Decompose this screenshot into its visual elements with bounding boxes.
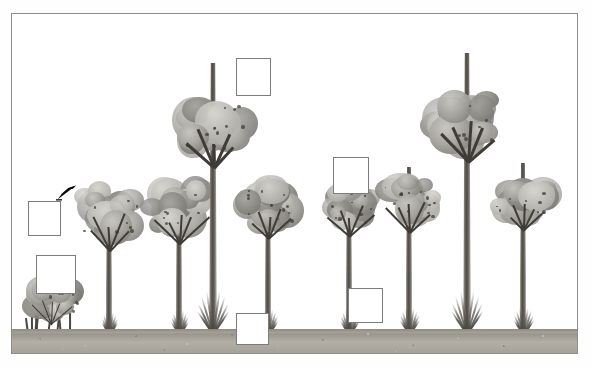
illustration-stage xyxy=(0,0,592,368)
answer-box-1[interactable] xyxy=(28,201,61,236)
answer-box-6[interactable] xyxy=(348,288,383,323)
answer-box-label xyxy=(349,289,382,322)
answer-box-label xyxy=(334,158,368,193)
answer-box-label xyxy=(237,314,268,344)
answer-box-label xyxy=(29,202,60,235)
answer-box-label xyxy=(237,59,270,95)
answer-box-2[interactable] xyxy=(36,255,76,294)
answer-box-4[interactable] xyxy=(333,157,369,194)
answer-box-label xyxy=(37,256,75,293)
answer-box-3[interactable] xyxy=(236,58,271,96)
answer-boxes-layer xyxy=(0,0,592,368)
answer-box-5[interactable] xyxy=(236,313,269,345)
mouse-pointer-icon xyxy=(56,184,78,202)
